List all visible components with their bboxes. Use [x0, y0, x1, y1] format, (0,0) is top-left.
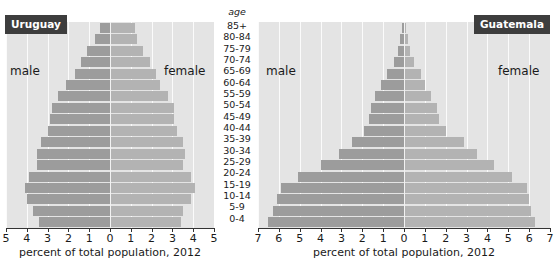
male-bar: [339, 149, 404, 159]
female-bar: [110, 206, 183, 216]
x-tick-label: 0: [102, 232, 118, 245]
x-tick-label: 3: [40, 232, 56, 245]
x-tick-label: 6: [521, 232, 537, 245]
female-bar: [404, 137, 464, 147]
male-bar: [268, 217, 404, 227]
male-bar: [37, 149, 110, 159]
male-label: male: [266, 64, 296, 78]
male-bar: [277, 194, 404, 204]
x-tick-label: 7: [250, 232, 266, 245]
female-bar: [110, 137, 183, 147]
female-bar: [404, 57, 414, 67]
female-bar: [404, 69, 421, 79]
country-title-badge: Guatemala: [474, 15, 550, 34]
age-label: 20-24: [218, 167, 256, 178]
female-bar: [404, 126, 446, 136]
male-bar: [394, 57, 404, 67]
age-label: 55-59: [218, 88, 256, 99]
x-tick-label: 6: [271, 232, 287, 245]
female-bar: [110, 217, 181, 227]
female-bar: [110, 194, 191, 204]
age-label: 60-64: [218, 77, 256, 88]
x-tick-label: 5: [0, 232, 14, 245]
x-tick-label: 4: [185, 232, 201, 245]
grid-line: [193, 22, 194, 228]
female-label: female: [498, 64, 539, 78]
male-bar: [273, 206, 404, 216]
male-bar: [29, 172, 110, 182]
female-bar: [110, 149, 185, 159]
x-tick-label: 0: [396, 232, 412, 245]
x-tick-label: 2: [60, 232, 76, 245]
x-tick-label: 2: [438, 232, 454, 245]
male-bar: [371, 103, 404, 113]
x-tick-label: 5: [206, 232, 222, 245]
x-tick-label: 1: [375, 232, 391, 245]
center-line: [110, 22, 111, 228]
plot-area: [6, 22, 214, 228]
age-label: 80-84: [218, 31, 256, 42]
female-bar: [110, 69, 156, 79]
male-bar: [381, 80, 404, 90]
male-bar: [375, 91, 404, 101]
female-bar: [110, 23, 135, 33]
male-bar: [58, 91, 110, 101]
age-axis: age 85+80-8475-7970-7465-6960-6455-5950-…: [218, 4, 256, 31]
male-bar: [369, 114, 404, 124]
age-label: 5-9: [218, 201, 256, 212]
age-label: 0-4: [218, 213, 256, 224]
x-axis-title: percent of total population, 2012: [6, 246, 214, 259]
age-label: 85+: [218, 20, 256, 31]
male-bar: [298, 172, 404, 182]
grid-line: [258, 22, 259, 228]
female-bar: [110, 126, 177, 136]
female-bar: [404, 206, 531, 216]
age-label: 10-14: [218, 190, 256, 201]
female-bar: [110, 160, 183, 170]
male-bar: [33, 206, 110, 216]
age-label: 15-19: [218, 179, 256, 190]
plot-area: [258, 22, 550, 228]
female-bar: [110, 91, 168, 101]
x-tick-label: 4: [19, 232, 35, 245]
female-bar: [404, 183, 527, 193]
x-tick-label: 3: [164, 232, 180, 245]
male-bar: [37, 160, 110, 170]
age-label: 35-39: [218, 133, 256, 144]
female-bar: [404, 160, 494, 170]
x-tick-label: 1: [417, 232, 433, 245]
male-bar: [66, 80, 110, 90]
male-bar: [50, 114, 110, 124]
grid-line: [550, 22, 551, 228]
age-label: 50-54: [218, 99, 256, 110]
age-label: 70-74: [218, 54, 256, 65]
female-label: female: [164, 64, 205, 78]
x-axis-title: percent of total population, 2012: [258, 246, 550, 259]
male-bar: [39, 217, 110, 227]
x-tick-label: 5: [292, 232, 308, 245]
female-bar: [110, 114, 174, 124]
female-bar: [404, 194, 529, 204]
age-label: 45-49: [218, 111, 256, 122]
male-bar: [352, 137, 404, 147]
female-bar: [404, 91, 431, 101]
x-tick-label: 4: [479, 232, 495, 245]
age-label: 65-69: [218, 65, 256, 76]
age-label: 25-29: [218, 156, 256, 167]
male-bar: [48, 126, 110, 136]
age-header: age: [218, 4, 256, 20]
grid-line: [529, 22, 530, 228]
x-tick-label: 3: [333, 232, 349, 245]
female-bar: [110, 172, 191, 182]
grid-line: [6, 22, 7, 228]
male-bar: [75, 69, 110, 79]
x-tick-label: 5: [500, 232, 516, 245]
male-bar: [52, 103, 110, 113]
male-bar: [95, 34, 110, 44]
grid-line: [214, 22, 215, 228]
female-bar: [404, 103, 437, 113]
female-bar: [404, 172, 512, 182]
male-bar: [27, 194, 110, 204]
female-bar: [110, 57, 150, 67]
male-bar: [81, 57, 110, 67]
